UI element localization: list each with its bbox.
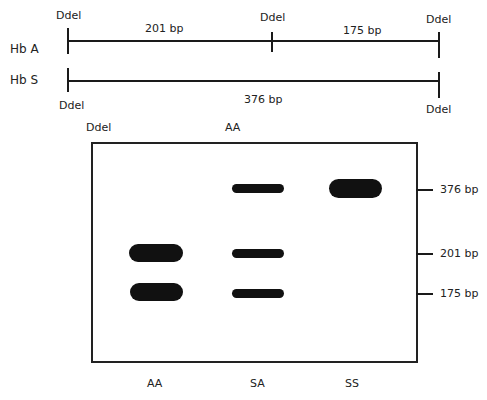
marker-label-201: 201 bp bbox=[440, 248, 478, 260]
lane-label-aa: AA bbox=[147, 378, 162, 390]
hbs-label: Hb S bbox=[10, 74, 38, 86]
marker-label-175: 175 bp bbox=[440, 288, 478, 300]
gel-header-aa: AA bbox=[225, 122, 240, 134]
hbs-fragment-376: 376 bp bbox=[244, 94, 282, 106]
marker-tick-175 bbox=[416, 293, 433, 295]
band-sa-201 bbox=[232, 249, 284, 258]
hbs-site-1-tick bbox=[67, 68, 69, 92]
hba-fragment-175: 175 bp bbox=[343, 25, 381, 37]
band-aa-201 bbox=[129, 244, 183, 262]
hba-label: Hb A bbox=[10, 43, 39, 55]
hba-site-1-tick bbox=[67, 28, 69, 54]
hba-fragment-201: 201 bp bbox=[145, 23, 183, 35]
band-aa-175 bbox=[130, 283, 183, 301]
hba-dna-line bbox=[68, 40, 439, 42]
band-sa-175 bbox=[232, 289, 284, 298]
lane-label-sa: SA bbox=[250, 378, 265, 390]
hbs-site-2-tick bbox=[438, 72, 440, 98]
band-sa-376 bbox=[232, 184, 284, 193]
lane-label-ss: SS bbox=[345, 378, 359, 390]
hba-site-3-label: Ddel bbox=[426, 14, 451, 26]
marker-tick-201 bbox=[416, 253, 433, 255]
hbs-site-1-label: Ddel bbox=[59, 100, 84, 112]
hbs-dna-line bbox=[68, 80, 439, 82]
hbs-site-2-label: Ddel bbox=[426, 104, 451, 116]
hba-site-2-tick bbox=[271, 32, 273, 52]
hba-site-2-label: Ddel bbox=[260, 12, 285, 24]
gel-header-ddel: Ddel bbox=[86, 122, 111, 134]
marker-label-376: 376 bp bbox=[440, 184, 478, 196]
hba-site-3-tick bbox=[438, 32, 440, 58]
band-ss-376 bbox=[329, 179, 382, 198]
hba-site-1-label: Ddel bbox=[56, 10, 81, 22]
marker-tick-376 bbox=[416, 189, 433, 191]
